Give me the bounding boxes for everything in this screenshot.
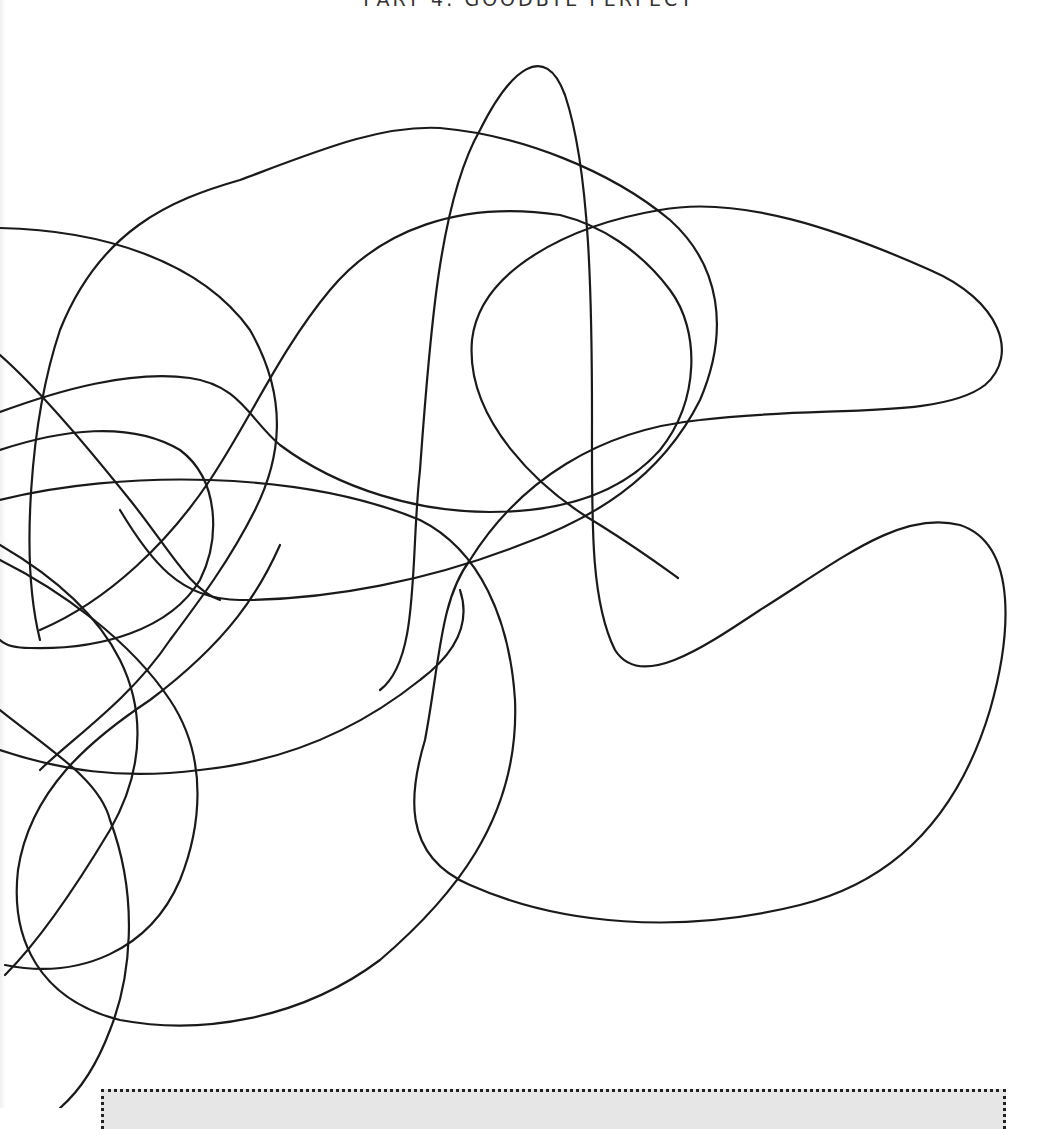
curve-lower-left-b xyxy=(0,710,129,1108)
curve-top-arc xyxy=(0,480,515,1026)
curve-lower-left-a xyxy=(0,560,198,969)
curve-mid-swoosh xyxy=(0,211,691,630)
curve-outer-big xyxy=(30,128,717,640)
curve-lower-left-c xyxy=(0,590,464,774)
note-box xyxy=(101,1089,1006,1129)
curve-left-circle xyxy=(0,228,277,770)
curve-left-loop xyxy=(0,431,213,648)
curve-lower-left-d xyxy=(0,545,138,975)
curve-tall-loop xyxy=(380,66,1005,922)
